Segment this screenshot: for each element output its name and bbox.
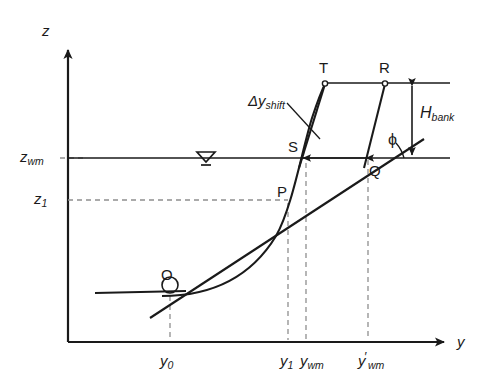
y-1-subscript: 1 (288, 359, 294, 371)
dashed-guides-group (60, 158, 368, 340)
h-bank-label: Hbank (420, 104, 454, 122)
y-wm-subscript: wm (308, 359, 324, 371)
z-axis-label: z (42, 22, 50, 39)
z-wm-label: zwm (20, 148, 44, 165)
y-wm-prime-label: y′wm (358, 352, 384, 369)
point-label-Q: Q (369, 162, 381, 179)
z-1-subscript: 1 (42, 197, 48, 209)
y-wm-base: y (300, 352, 308, 369)
point-marker-R (382, 81, 387, 86)
point-label-O: O (161, 266, 173, 283)
point-label-T: T (319, 59, 328, 76)
y-axis-label: y (457, 333, 465, 350)
tangent-line-phi (150, 139, 424, 318)
bank-face-original-ST (299, 84, 325, 168)
river-bank-geometry-figure: z y zwm z1 y0 y1 ywm y′wm O P S Q T R Δy… (0, 0, 498, 390)
z-wm-subscript: wm (28, 155, 44, 167)
point-label-S: S (288, 138, 298, 155)
delta-y-shift-base: Δy (248, 92, 266, 109)
y-1-base: y (280, 352, 288, 369)
bank-face-shifted-QR (364, 84, 385, 168)
diagram-canvas (0, 0, 498, 390)
phi-angle-label: ϕ (388, 131, 397, 149)
y-0-base: y (160, 352, 168, 369)
y-0-label: y0 (160, 352, 173, 369)
delta-y-shift-label: Δyshift (248, 92, 285, 109)
h-bank-subscript: bank (432, 111, 455, 123)
point-label-R: R (379, 59, 390, 76)
y-1-label: y1 (280, 352, 293, 369)
delta-y-shift-subscript: shift (266, 99, 285, 111)
y-0-subscript: 0 (168, 359, 174, 371)
bank-profile-curve (162, 84, 325, 296)
h-bank-base: H (420, 104, 432, 121)
y-wm-prime-mark: ′ (365, 349, 367, 364)
z-wm-base: z (20, 148, 28, 165)
z-1-label: z1 (34, 190, 47, 207)
y-wm-prime-subscript: wm (368, 359, 384, 371)
y-wm-label: ywm (300, 352, 324, 369)
point-label-P: P (277, 183, 287, 200)
z-1-base: z (34, 190, 42, 207)
point-marker-T (322, 81, 327, 86)
